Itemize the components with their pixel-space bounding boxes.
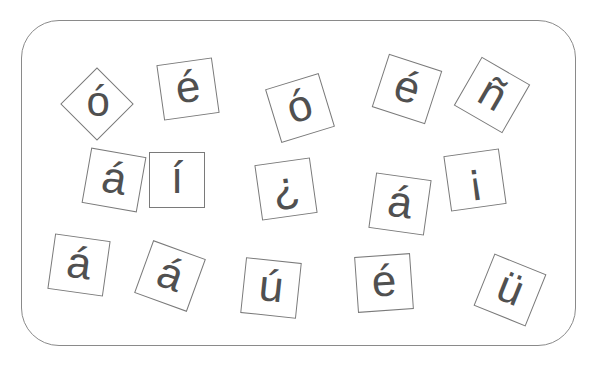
letter-tile-a-acute[interactable]: á — [368, 172, 431, 235]
tile-glyph: á — [64, 240, 94, 287]
tile-glyph: ñ — [471, 68, 514, 118]
tile-glyph: ó — [281, 81, 317, 130]
tile-glyph: ú — [257, 263, 286, 309]
tile-glyph: é — [173, 64, 203, 111]
letter-tile-inverted-exclamation[interactable]: ¡ — [443, 148, 506, 211]
tile-glyph: á — [152, 249, 190, 299]
tile-glyph: í — [171, 156, 183, 200]
tile-glyph: á — [98, 154, 130, 202]
letter-tile-e-acute[interactable]: é — [156, 57, 219, 120]
tile-glyph: é — [370, 258, 397, 304]
letter-tile-inverted-question[interactable]: ¿ — [254, 157, 317, 220]
letter-tile-e-acute[interactable]: é — [354, 253, 414, 313]
letter-tile-i-acute[interactable]: í — [149, 152, 205, 208]
letter-tile-a-acute[interactable]: á — [47, 233, 110, 296]
tile-glyph: é — [389, 62, 426, 111]
letter-tile-a-acute[interactable]: á — [82, 148, 147, 213]
tile-glyph: ó — [87, 82, 110, 124]
tile-glyph: ü — [491, 263, 530, 313]
letter-tile-u-acute[interactable]: ú — [240, 257, 302, 319]
tile-glyph: ¡ — [464, 155, 485, 201]
tile-glyph: ¿ — [269, 163, 302, 210]
tile-glyph: á — [385, 179, 415, 226]
